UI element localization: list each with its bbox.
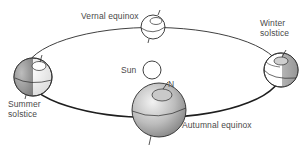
label-north: N <box>168 79 174 89</box>
label-winter-line2: solstice <box>260 28 289 38</box>
label-sun: Sun <box>121 65 136 75</box>
label-vernal-equinox: Vernal equinox <box>81 11 139 21</box>
label-summer-line1: Summer <box>8 99 41 109</box>
orbit-diagram-svg <box>0 0 303 149</box>
label-summer-solstice: Summer solstice <box>8 99 41 119</box>
globe-autumnal-equinox <box>132 82 186 145</box>
sun-circle <box>143 61 161 79</box>
label-autumnal-equinox: Autumnal equinox <box>182 120 252 130</box>
label-winter-line1: Winter <box>260 18 289 28</box>
globe-summer-solstice <box>10 55 52 100</box>
seasons-diagram: Vernal equinox Winter solstice Summer so… <box>0 0 303 149</box>
label-summer-line2: solstice <box>8 109 41 119</box>
globe-vernal-equinox <box>141 10 165 43</box>
globe-winter-solstice <box>264 50 302 90</box>
label-winter-solstice: Winter solstice <box>260 18 289 38</box>
